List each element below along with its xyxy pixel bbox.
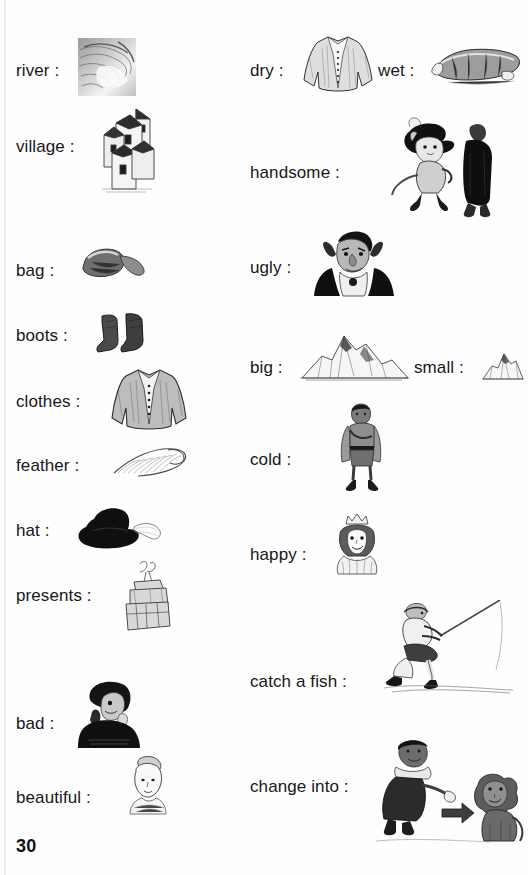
change-into-sketch <box>370 737 525 847</box>
entry-label-change-into: change into : <box>250 777 349 796</box>
bag-sketch <box>76 244 148 284</box>
entry-label-river: river : <box>16 61 59 80</box>
happy-princess-sketch <box>326 512 388 578</box>
river-sketch <box>78 38 136 96</box>
entry-label-big: big : <box>250 358 283 377</box>
big-mountain-sketch <box>300 330 410 382</box>
entry-label-catch-a-fish: catch a fish : <box>250 672 347 691</box>
beautiful-sketch <box>122 754 174 816</box>
entry-label-small: small : <box>414 358 464 377</box>
wet-jacket-sketch <box>430 44 524 86</box>
fishing-sketch <box>384 600 514 696</box>
entry-label-village: village : <box>16 137 75 156</box>
cold-boy-sketch <box>336 400 388 494</box>
entry-label-happy: happy : <box>250 545 306 564</box>
page-number: 30 <box>16 836 37 857</box>
entry-label-dry: dry : <box>250 61 284 80</box>
presents-sketch <box>116 560 178 634</box>
entry-label-feather: feather : <box>16 456 79 475</box>
feather-sketch <box>110 443 190 481</box>
dry-jacket-sketch <box>302 34 374 96</box>
hat-sketch <box>72 505 164 553</box>
handsome-cat-sketch <box>386 113 502 219</box>
entry-label-beautiful: beautiful : <box>16 788 91 807</box>
small-mountain-sketch <box>482 350 524 382</box>
worksheet-page: river : <box>0 0 528 875</box>
bad-sketch <box>74 678 144 748</box>
boots-sketch <box>96 312 154 356</box>
entry-label-clothes: clothes : <box>16 392 80 411</box>
entry-label-ugly: ugly : <box>250 258 291 277</box>
ugly-ogre-sketch <box>302 228 406 298</box>
entry-label-cold: cold : <box>250 450 291 469</box>
entry-label-bad: bad : <box>16 714 54 733</box>
entry-label-wet: wet : <box>378 61 414 80</box>
entry-label-hat: hat : <box>16 521 50 540</box>
clothes-sketch <box>110 366 188 434</box>
entry-label-handsome: handsome : <box>250 163 340 182</box>
entry-label-boots: boots : <box>16 326 68 345</box>
scan-edge-line <box>4 0 6 875</box>
village-sketch <box>96 105 158 195</box>
entry-label-bag: bag : <box>16 261 54 280</box>
entry-label-presents: presents : <box>16 586 92 605</box>
